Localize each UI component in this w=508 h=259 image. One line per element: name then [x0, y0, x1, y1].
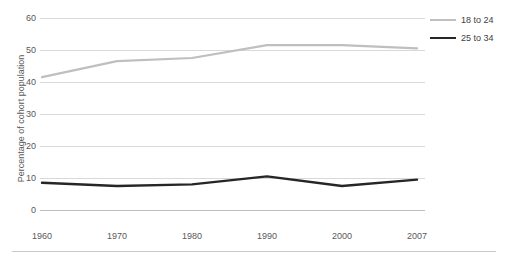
line-chart: Percentage of cohort population 01020304… — [0, 0, 508, 259]
legend-item-18-to-24[interactable]: 18 to 24 — [430, 13, 508, 27]
y-tick-label-60: 60 — [26, 14, 36, 23]
legend-item-25-to-34[interactable]: 25 to 34 — [430, 31, 508, 45]
x-axis-ticks: 196019701980199020002007 — [40, 232, 425, 244]
x-tick-label-2000: 2000 — [332, 232, 352, 241]
y-tick-label-30: 30 — [26, 110, 36, 119]
x-tick-label-1980: 1980 — [182, 232, 202, 241]
y-tick-label-50: 50 — [26, 46, 36, 55]
x-tick-label-2007: 2007 — [407, 232, 427, 241]
x-tick-label-1960: 1960 — [32, 232, 52, 241]
y-tick-label-20: 20 — [26, 142, 36, 151]
legend-swatch-icon — [430, 37, 456, 39]
y-axis-title: Percentage of cohort population — [17, 29, 26, 209]
legend-label: 25 to 34 — [461, 34, 494, 43]
y-tick-label-0: 0 — [31, 206, 36, 215]
x-tick-label-1990: 1990 — [257, 232, 277, 241]
bottom-divider — [12, 251, 496, 252]
legend-label: 18 to 24 — [461, 16, 494, 25]
y-tick-label-10: 10 — [26, 174, 36, 183]
plot-area: 0102030405060 — [40, 18, 425, 210]
y-tick-label-40: 40 — [26, 78, 36, 87]
x-axis-line — [40, 210, 425, 211]
series-line-18-to-24 — [42, 45, 417, 77]
x-tick-label-1970: 1970 — [107, 232, 127, 241]
legend: 18 to 2425 to 34 — [430, 13, 508, 49]
series-line-25-to-34 — [42, 176, 417, 186]
series-lines — [40, 18, 425, 210]
legend-swatch-icon — [430, 19, 456, 21]
y-axis-title-container: Percentage of cohort population — [8, 18, 22, 210]
